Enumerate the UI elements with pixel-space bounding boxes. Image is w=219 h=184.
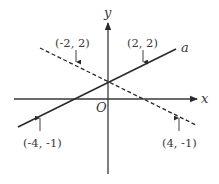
point-label-neg2-2: (-2, 2) xyxy=(55,36,90,50)
point-label-neg4-neg1: (-4, -1) xyxy=(23,136,62,150)
origin-label: O xyxy=(96,100,107,115)
point-label-4-neg1: (4, -1) xyxy=(162,136,197,150)
dashed-line xyxy=(40,48,196,125)
line-a-label: a xyxy=(181,40,189,55)
x-axis-label: x xyxy=(201,91,209,106)
point-label-2-2: (2, 2) xyxy=(127,36,158,50)
line-a xyxy=(18,49,176,127)
y-axis-label: y xyxy=(103,5,112,20)
coordinate-diagram: x y O a (-2, 2) (2, 2) (-4, -1) (4, -1) xyxy=(0,0,219,184)
